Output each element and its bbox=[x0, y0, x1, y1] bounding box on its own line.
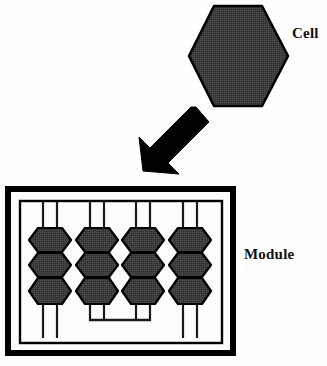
single-cell-group bbox=[189, 6, 288, 106]
down-left-arrow-icon bbox=[139, 107, 209, 174]
diagram-canvas: Cell Module bbox=[0, 0, 327, 366]
module-cell-hexagon bbox=[76, 253, 118, 277]
diagram-graphics bbox=[0, 0, 327, 366]
module-cell-hexagon bbox=[29, 278, 71, 304]
module-cell-hexagon bbox=[169, 228, 211, 252]
arrow-group bbox=[139, 107, 209, 174]
module-cell-hexagon bbox=[122, 228, 164, 252]
module-cell-hexagon bbox=[122, 253, 164, 277]
module-cell-hexagon bbox=[29, 228, 71, 252]
module-group bbox=[8, 189, 233, 353]
cell-hexagon bbox=[189, 6, 288, 106]
module-cell-hexagon bbox=[122, 278, 164, 304]
module-label: Module bbox=[244, 246, 294, 263]
module-cell-hexagon bbox=[76, 228, 118, 252]
cell-label: Cell bbox=[292, 25, 319, 42]
module-cell-hexagon bbox=[76, 278, 118, 304]
module-cell-hexagon bbox=[169, 253, 211, 277]
module-cell-hexagon bbox=[169, 278, 211, 304]
module-cell-hexagon bbox=[29, 253, 71, 277]
